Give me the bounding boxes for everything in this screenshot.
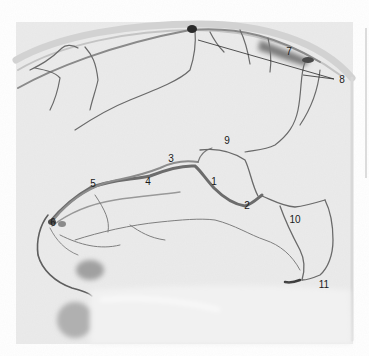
angiogram-image bbox=[0, 0, 369, 356]
label-2: 2 bbox=[244, 201, 250, 211]
label-10: 10 bbox=[289, 215, 300, 225]
label-1: 1 bbox=[211, 177, 217, 187]
label-7: 7 bbox=[286, 47, 292, 57]
label-3: 3 bbox=[168, 154, 174, 164]
label-4: 4 bbox=[145, 177, 151, 187]
label-11: 11 bbox=[319, 280, 329, 290]
film-edge-strip bbox=[365, 28, 367, 178]
label-6: 6 bbox=[50, 218, 56, 228]
label-5: 5 bbox=[90, 179, 96, 189]
angiogram-figure: 1 2 3 4 5 6 7 8 9 10 11 bbox=[0, 0, 369, 356]
label-9: 9 bbox=[224, 136, 230, 146]
label-8: 8 bbox=[339, 75, 345, 85]
